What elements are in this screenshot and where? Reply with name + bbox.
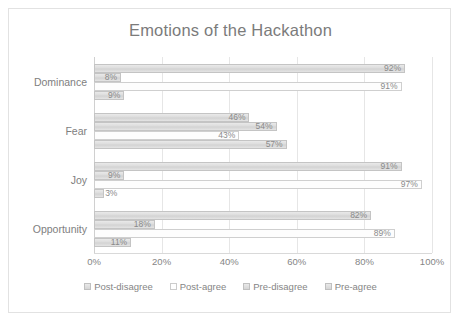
legend-label: Post-disagree — [94, 281, 153, 292]
bar-value-label: 57% — [266, 140, 283, 149]
bar-dominance-pre-agree[interactable]: 92% — [94, 64, 405, 73]
category-label-joy: Joy — [71, 174, 87, 186]
x-tick-20: 20% — [152, 256, 171, 267]
legend-label: Pre-agree — [335, 281, 377, 292]
chart-title: Emotions of the Hackathon — [9, 21, 452, 40]
legend-item-pre-disagree[interactable]: Pre-disagree — [243, 281, 307, 292]
bar-row: 11% — [94, 238, 432, 247]
bar-value-label: 82% — [350, 211, 367, 220]
bar-opportunity-pre-agree[interactable]: 82% — [94, 211, 371, 220]
bar-row: 91% — [94, 82, 432, 91]
bar-row: 9% — [94, 91, 432, 100]
bar-row: 91% — [94, 162, 432, 171]
x-axis-line — [94, 253, 432, 254]
legend-swatch-icon — [325, 283, 332, 290]
x-tick-80: 80% — [355, 256, 374, 267]
bar-row: 57% — [94, 140, 432, 149]
bar-value-label: 92% — [384, 64, 401, 73]
bar-value-label: 89% — [374, 229, 391, 238]
legend-swatch-icon — [243, 283, 250, 290]
x-tick-40: 40% — [220, 256, 239, 267]
legend-swatch-icon — [170, 283, 177, 290]
plot-area: 9%91%8%92%57%43%54%46%3%97%9%91%11%89%18… — [94, 57, 432, 253]
bar-value-label: 11% — [111, 238, 127, 247]
bar-fear-pre-agree[interactable]: 46% — [94, 113, 249, 122]
category-label-opportunity: Opportunity — [33, 223, 87, 235]
bar-value-label: 43% — [218, 131, 235, 140]
bar-row: 82% — [94, 211, 432, 220]
legend-item-post-agree[interactable]: Post-agree — [170, 281, 226, 292]
bar-row: 46% — [94, 113, 432, 122]
bar-opportunity-post-disagree[interactable]: 11% — [94, 238, 131, 247]
chart-legend: Post-disagreePost-agreePre-disagreePre-a… — [9, 281, 452, 292]
bar-row: 97% — [94, 180, 432, 189]
bar-row: 9% — [94, 171, 432, 180]
bar-row: 89% — [94, 229, 432, 238]
bar-fear-pre-disagree[interactable]: 54% — [94, 122, 277, 131]
bar-row: 8% — [94, 73, 432, 82]
bar-value-label: 18% — [134, 220, 151, 229]
bar-value-label: 97% — [401, 180, 418, 189]
chart-frame: Emotions of the Hackathon 9%91%8%92%57%4… — [8, 8, 451, 313]
bar-joy-pre-disagree[interactable]: 9% — [94, 171, 124, 180]
bar-value-label: 54% — [256, 122, 273, 131]
bar-value-label: 9% — [108, 91, 120, 100]
legend-item-post-disagree[interactable]: Post-disagree — [84, 281, 153, 292]
x-tick-60: 60% — [287, 256, 306, 267]
bar-row: 43% — [94, 131, 432, 140]
bar-opportunity-pre-disagree[interactable]: 18% — [94, 220, 155, 229]
bar-fear-post-disagree[interactable]: 57% — [94, 140, 287, 149]
bar-value-label: 46% — [228, 113, 245, 122]
bar-fear-post-agree[interactable]: 43% — [94, 131, 239, 140]
bar-opportunity-post-agree[interactable]: 89% — [94, 229, 395, 238]
bar-value-label: 91% — [381, 162, 398, 171]
bar-dominance-post-disagree[interactable]: 9% — [94, 91, 124, 100]
bar-joy-pre-agree[interactable]: 91% — [94, 162, 402, 171]
category-label-fear: Fear — [65, 125, 87, 137]
bar-value-label: 8% — [105, 73, 117, 82]
bar-value-label: 9% — [108, 171, 120, 180]
gridline-100 — [432, 57, 433, 253]
legend-label: Post-agree — [180, 281, 226, 292]
bar-joy-post-agree[interactable]: 97% — [94, 180, 422, 189]
bar-row: 54% — [94, 122, 432, 131]
bar-value-label: 3% — [105, 189, 117, 198]
legend-swatch-icon — [84, 283, 91, 290]
bar-joy-post-disagree[interactable]: 3% — [94, 189, 104, 198]
x-tick-0: 0% — [87, 256, 101, 267]
bar-value-label: 91% — [381, 82, 398, 91]
x-tick-100: 100% — [420, 256, 444, 267]
bar-row: 18% — [94, 220, 432, 229]
bar-row: 3% — [94, 189, 432, 198]
bar-row: 92% — [94, 64, 432, 73]
legend-label: Pre-disagree — [253, 281, 307, 292]
bar-dominance-post-agree[interactable]: 91% — [94, 82, 402, 91]
category-label-dominance: Dominance — [34, 76, 87, 88]
bar-dominance-pre-disagree[interactable]: 8% — [94, 73, 121, 82]
legend-item-pre-agree[interactable]: Pre-agree — [325, 281, 377, 292]
